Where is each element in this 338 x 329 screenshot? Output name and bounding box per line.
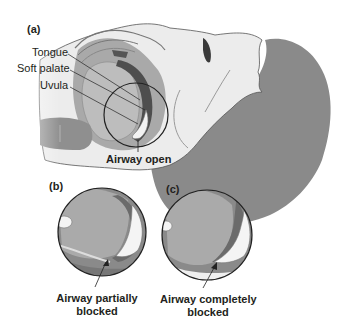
callout-tongue: Tongue <box>32 46 68 58</box>
panel-b-label: (b) <box>49 180 63 192</box>
callout-soft-palate: Soft palate <box>17 62 70 74</box>
airway-diagram: (a) Tongue Soft palate Uvula Airway open… <box>0 0 338 329</box>
panel-c-label: (c) <box>166 183 179 195</box>
panel-b-caption: Airway partially blocked <box>56 292 138 318</box>
panel-a-label: (a) <box>27 23 40 35</box>
panel-a-caption: Airway open <box>106 153 171 165</box>
panel-b-caption-line1: Airway partially <box>56 292 138 305</box>
callout-uvula: Uvula <box>40 79 68 91</box>
panel-c-caption: Airway completely blocked <box>160 293 256 319</box>
panel-b-magnifier-contents <box>55 185 150 280</box>
panel-c-caption-line1: Airway completely <box>160 293 256 306</box>
panel-b-caption-line2: blocked <box>56 305 138 318</box>
panel-c-caption-line2: blocked <box>160 306 256 319</box>
